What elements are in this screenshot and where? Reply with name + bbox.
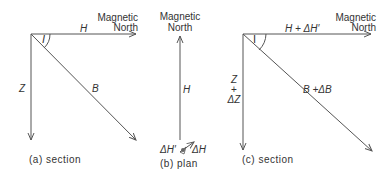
z-label-a: Z — [19, 83, 25, 94]
h-plus-delta-h-label: H + ΔH′ — [285, 23, 319, 34]
b-plus-delta-b-label: B +ΔB — [303, 84, 332, 95]
delta-z-label-c: ΔZ — [226, 94, 242, 105]
inclination-arc — [259, 34, 266, 50]
b-label-a: B — [92, 83, 99, 94]
plan-origin-dot — [181, 148, 185, 152]
panel-a-vectors — [31, 34, 136, 140]
caption-c: (c) section — [242, 154, 294, 165]
h-label-b: H — [183, 84, 190, 95]
delta-h-prime-label: ΔH′ — [160, 144, 176, 155]
h-label-a: H — [80, 23, 87, 34]
panel-b-vectors — [180, 36, 194, 154]
b-vector — [31, 34, 136, 140]
magnetic-north-label-a-line2: North — [92, 22, 138, 33]
delta-h-label: ΔH — [192, 144, 206, 155]
magnetic-north-label-b-line1: Magnetic — [155, 11, 205, 22]
magnetic-north-label-b-line2: North — [155, 22, 205, 33]
caption-a: (a) section — [29, 154, 81, 165]
angle-label-c: I — [253, 34, 256, 45]
caption-b: (b) plan — [160, 158, 198, 169]
magnetic-north-label-c-line2: North — [326, 22, 376, 33]
angle-label-a: I — [42, 34, 45, 45]
